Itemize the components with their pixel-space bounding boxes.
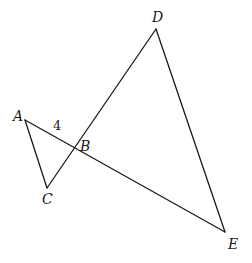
point-label-a: A [11,108,23,124]
point-label-e: E [227,236,238,252]
point-label-b: B [79,138,90,154]
point-label-c: C [42,191,53,207]
segment-de [156,29,225,232]
point-labels: A B C D E [11,9,238,252]
geometry-diagram: A B C D E 4 [0,0,252,263]
segment-cd [47,29,156,188]
point-label-d: D [151,9,163,25]
length-label-ab: 4 [53,118,61,133]
annotations: 4 [53,118,61,133]
